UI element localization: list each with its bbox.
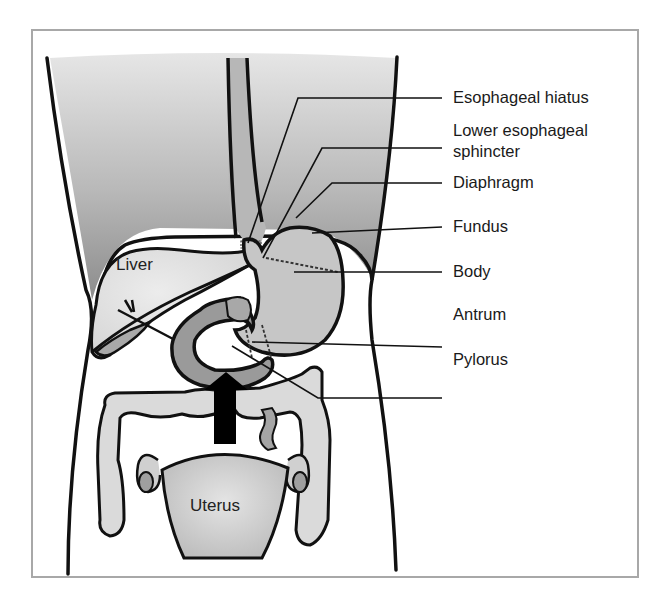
callout-lower-esophageal-sphincter-line1: Lower esophageal — [453, 121, 588, 140]
liver-label: Liver — [116, 255, 153, 275]
callout-body: Body — [453, 262, 491, 281]
uterus-label: Uterus — [190, 496, 240, 516]
left-ovary — [139, 472, 153, 492]
right-ovary — [293, 472, 307, 492]
callout-lower-esophageal-sphincter-line2: sphincter — [453, 142, 520, 161]
callout-esophageal-hiatus: Esophageal hiatus — [453, 88, 589, 107]
pylorus — [226, 297, 251, 321]
callout-antrum: Antrum — [453, 305, 506, 324]
callout-pylorus: Pylorus — [453, 350, 508, 369]
callout-diaphragm: Diaphragm — [453, 173, 534, 192]
callout-fundus: Fundus — [453, 217, 508, 236]
stomach — [235, 227, 343, 355]
